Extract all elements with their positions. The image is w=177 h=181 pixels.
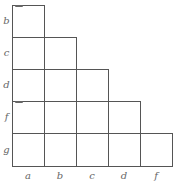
pen-mark xyxy=(15,101,23,103)
chart-cell-f-c xyxy=(76,101,109,134)
chart-cell-g-c xyxy=(76,133,109,167)
chart-cell-f-b xyxy=(44,101,77,134)
chart-cell-g-f xyxy=(140,133,173,167)
chart-cell-d-b xyxy=(44,69,77,102)
chart-cell-g-d xyxy=(108,133,141,167)
row-label-d: d xyxy=(2,80,11,90)
row-label-c: c xyxy=(2,48,11,58)
row-label-g: g xyxy=(2,145,11,155)
column-label-f: f xyxy=(140,171,172,181)
chart-cell-g-b xyxy=(44,133,77,167)
row-label-f: f xyxy=(2,112,11,122)
chart-cell-d-a xyxy=(12,69,45,102)
pen-mark xyxy=(15,5,23,7)
chart-cell-b-a xyxy=(12,5,45,38)
column-label-c: c xyxy=(76,171,108,181)
column-label-b: b xyxy=(44,171,76,181)
row-label-b: b xyxy=(2,16,11,26)
column-label-a: a xyxy=(12,171,44,181)
chart-cell-c-a xyxy=(12,37,45,70)
chart-cell-d-c xyxy=(76,69,109,102)
column-label-d: d xyxy=(108,171,140,181)
chart-cell-f-a xyxy=(12,101,45,134)
chart-cell-c-b xyxy=(44,37,77,70)
chart-cell-g-a xyxy=(12,133,45,167)
chart-cell-f-d xyxy=(108,101,141,134)
